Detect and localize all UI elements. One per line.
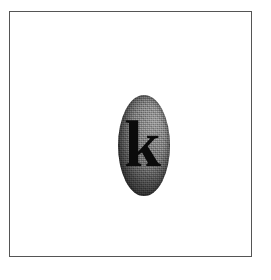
- image-frame-border: k: [9, 11, 252, 257]
- image-canvas: k: [0, 0, 271, 280]
- oval-letter-badge: k: [118, 95, 170, 196]
- badge-letter-glyph: k: [118, 95, 170, 196]
